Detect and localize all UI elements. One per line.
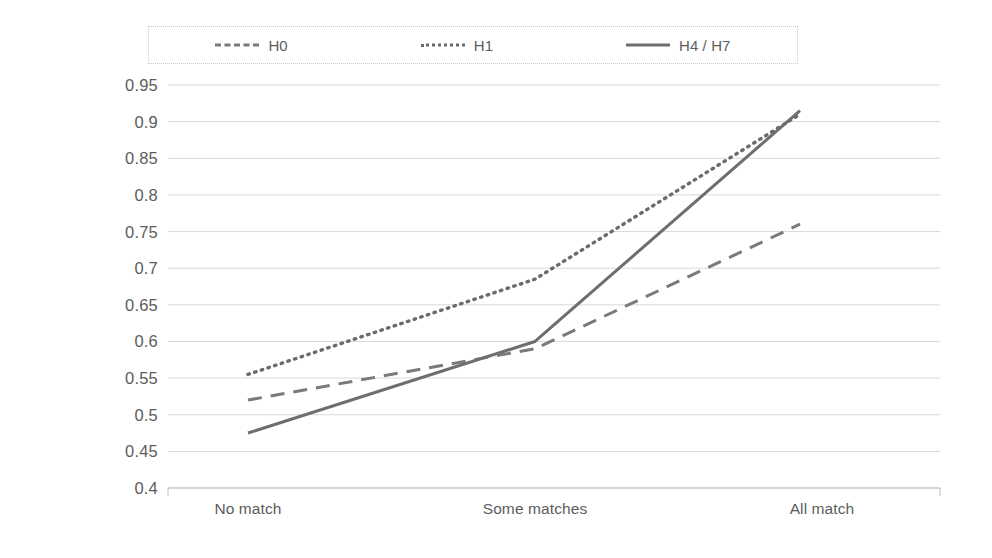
data-series-layer <box>248 111 800 433</box>
plot-area <box>0 0 992 558</box>
series-line-h1 <box>248 114 800 374</box>
horizontal-gridlines <box>168 85 940 488</box>
axis-lines <box>168 488 940 496</box>
series-line-h4-h7 <box>248 111 800 433</box>
series-line-h0 <box>248 224 800 400</box>
line-chart: H0 H1 H4 / H7 0.95 0.9 0.85 0.8 0.75 0.7… <box>0 0 992 558</box>
